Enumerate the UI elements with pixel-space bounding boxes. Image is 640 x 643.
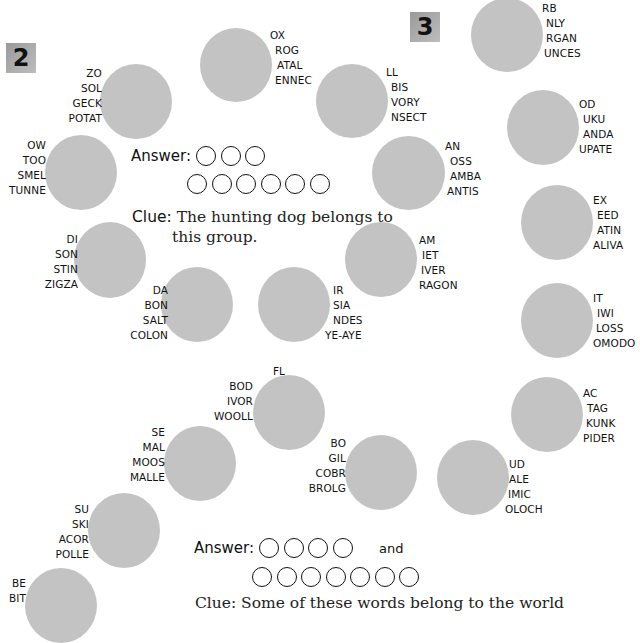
letter-disc-be[interactable] <box>25 568 97 643</box>
clue-text-cont: this group. <box>132 227 393 247</box>
answer-letter-slot[interactable] <box>196 146 216 166</box>
word-fragment: ANTIS <box>445 184 481 199</box>
word-fragment: IR <box>325 283 363 298</box>
puzzle-number: 3 <box>417 13 434 41</box>
letter-disc-su[interactable] <box>88 493 160 568</box>
word-list-se: SE MAL MOOS MALLE <box>130 425 165 485</box>
word-fragment: SKI <box>56 517 89 532</box>
word-fragment: OLOCH <box>505 502 543 517</box>
word-fragment: OX <box>270 28 312 43</box>
word-fragment: DA <box>130 283 168 298</box>
answer-letter-slot[interactable] <box>333 538 353 558</box>
answer-letter-slot[interactable] <box>326 567 346 587</box>
word-fragment: OMODO <box>593 336 635 351</box>
letter-disc-se[interactable] <box>164 426 236 501</box>
answer-row-puzzle-2: Answer: <box>131 146 270 166</box>
word-fragment: TUNNE <box>9 183 46 198</box>
word-fragment: AMBA <box>445 169 481 184</box>
word-fragment: ZIGZA <box>45 277 78 292</box>
letter-disc-rb[interactable] <box>471 0 543 72</box>
word-fragment: OW <box>9 138 46 153</box>
word-list-ow: OW TOO SMEL TUNNE <box>9 138 46 198</box>
clue-text: The hunting dog belongs to <box>177 208 393 226</box>
word-fragment: SU <box>56 502 89 517</box>
answer-letter-slot[interactable] <box>245 146 265 166</box>
answer-row-puzzle-2-word-2 <box>187 174 334 194</box>
answer-letter-slot[interactable] <box>277 567 297 587</box>
word-fragment: BE <box>9 576 26 591</box>
word-fragment: IET <box>419 248 458 263</box>
puzzle-number-badge-2: 2 <box>6 43 36 73</box>
word-fragment: IMIC <box>505 487 543 502</box>
word-fragment: EED <box>593 208 623 223</box>
word-fragment: OSS <box>445 154 481 169</box>
word-fragment: ANDA <box>579 127 614 142</box>
answer-letter-slot[interactable] <box>252 567 272 587</box>
word-fragment: ROG <box>270 43 312 58</box>
letter-disc-ll[interactable] <box>316 64 388 138</box>
word-fragment: IVOR <box>214 394 253 409</box>
word-list-ac: AC TAG KUNK PIDER <box>583 386 615 446</box>
word-fragment: LL <box>386 65 426 80</box>
answer-letter-slot[interactable] <box>301 567 321 587</box>
answer-letter-slot[interactable] <box>187 174 207 194</box>
word-fragment: IVER <box>419 263 458 278</box>
letter-disc-ir[interactable] <box>258 267 330 342</box>
letter-disc-ex[interactable] <box>521 185 593 260</box>
letter-disc-od[interactable] <box>507 90 579 165</box>
answer-joiner: and <box>379 541 403 556</box>
answer-letter-slot[interactable] <box>308 538 328 558</box>
letter-disc-ac[interactable] <box>511 377 583 452</box>
answer-letter-slot[interactable] <box>375 567 395 587</box>
word-fragment: TOO <box>9 153 46 168</box>
word-fragment: ZO <box>69 66 102 81</box>
answer-letter-slot[interactable] <box>221 146 241 166</box>
clue-puzzle-3-partial: Clue: Some of these words belong to the … <box>195 594 564 612</box>
word-list-ir: IR SIA NDES YE-AYE <box>325 283 363 343</box>
answer-letter-slot[interactable] <box>212 174 232 194</box>
word-fragment: MAL <box>130 440 165 455</box>
word-fragment: NSECT <box>386 110 426 125</box>
answer-letter-slot[interactable] <box>285 174 305 194</box>
word-list-su: SU SKI ACOR POLLE <box>56 502 89 562</box>
word-list-da: DA BON SALT COLON <box>130 283 168 343</box>
answer-letter-slot[interactable] <box>350 567 370 587</box>
answer-label: Answer: <box>194 539 254 557</box>
answer-letter-slot[interactable] <box>310 174 330 194</box>
letter-disc-zo[interactable] <box>100 64 172 139</box>
word-fragment: RAGON <box>419 278 458 293</box>
word-fragment: SON <box>45 247 78 262</box>
word-fragment: ENNEC <box>270 73 312 88</box>
answer-letter-slot[interactable] <box>261 174 281 194</box>
letter-disc-ox[interactable] <box>200 28 272 102</box>
word-fragment: RB <box>542 1 581 16</box>
word-fragment: IWI <box>593 306 635 321</box>
word-list-am: AM IET IVER RAGON <box>419 233 458 293</box>
word-fragment: BOD <box>214 379 253 394</box>
answer-letter-slot[interactable] <box>236 174 256 194</box>
letter-disc-an[interactable] <box>372 136 445 210</box>
letter-disc-ow[interactable] <box>45 135 117 210</box>
word-fragment: TAG <box>583 401 615 416</box>
word-list-it: IT IWI LOSS OMODO <box>593 291 635 351</box>
word-fragment: ATIN <box>593 223 623 238</box>
puzzle-number-badge-3: 3 <box>410 12 440 42</box>
word-fragment: YE-AYE <box>325 328 363 343</box>
word-fragment: SMEL <box>9 168 46 183</box>
word-fragment: AM <box>419 233 458 248</box>
letter-disc-it[interactable] <box>521 283 593 358</box>
answer-letter-slot[interactable] <box>259 538 279 558</box>
word-fragment: POLLE <box>56 547 89 562</box>
answer-row-puzzle-3-word-2 <box>252 567 424 587</box>
letter-disc-bo[interactable] <box>345 435 417 510</box>
word-list-di: DI SON STIN ZIGZA <box>45 232 78 292</box>
answer-letter-slot[interactable] <box>284 538 304 558</box>
clue-label: Clue: <box>132 208 172 226</box>
letter-disc-da[interactable] <box>161 267 233 342</box>
word-fragment: VORY <box>386 95 426 110</box>
answer-letter-slot[interactable] <box>399 567 419 587</box>
word-list-od: OD UKU ANDA UPATE <box>579 97 614 157</box>
word-fragment: DI <box>45 232 78 247</box>
word-fragment: GIL <box>309 451 346 466</box>
letter-disc-ud[interactable] <box>437 440 509 515</box>
